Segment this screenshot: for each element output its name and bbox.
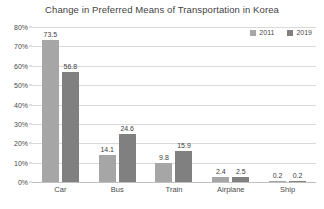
bar-slot: 2.4 (212, 27, 229, 182)
x-axis-line (32, 182, 316, 183)
y-axis-tick-label: 70% (14, 43, 28, 50)
bar-train-2019[interactable] (175, 151, 192, 182)
bar-group-car: 73.556.8 (32, 27, 89, 182)
bar-value-label: 15.9 (177, 142, 191, 149)
chart-container: Change in Preferred Means of Transportat… (0, 0, 324, 209)
bar-value-label: 2.4 (216, 168, 226, 175)
bar-airplane-2011[interactable] (212, 177, 229, 182)
bar-slot: 15.9 (175, 27, 192, 182)
bar-value-label: 14.1 (100, 146, 114, 153)
bar-airplane-2019[interactable] (232, 177, 249, 182)
plot-area: 0%10%20%30%40%50%60%70%80% 73.556.814.12… (32, 27, 316, 182)
bar-group-bus: 14.124.6 (89, 27, 146, 182)
bar-slot: 73.5 (42, 27, 59, 182)
bar-groups: 73.556.814.124.69.815.92.42.50.20.2 (32, 27, 316, 182)
bar-group-train: 9.815.9 (146, 27, 203, 182)
x-axis-label-bus: Bus (89, 185, 146, 194)
bar-slot: 56.8 (62, 27, 79, 182)
y-axis-tick-label: 30% (14, 120, 28, 127)
x-axis-labels: CarBusTrainAirplaneShip (32, 185, 316, 194)
y-axis-tick-label: 10% (14, 159, 28, 166)
bar-group-ship: 0.20.2 (259, 27, 316, 182)
bar-car-2011[interactable] (42, 40, 59, 182)
bar-value-label: 73.5 (44, 31, 58, 38)
bar-slot: 9.8 (155, 27, 172, 182)
x-axis-label-train: Train (146, 185, 203, 194)
y-axis-tick-label: 80% (14, 24, 28, 31)
bar-value-label: 24.6 (120, 125, 134, 132)
x-axis-label-ship: Ship (259, 185, 316, 194)
chart-title: Change in Preferred Means of Transportat… (0, 4, 324, 15)
bar-value-label: 0.2 (293, 172, 303, 179)
bar-train-2011[interactable] (155, 163, 172, 182)
y-axis-tick-label: 40% (14, 101, 28, 108)
y-axis-tick-label: 50% (14, 82, 28, 89)
bar-car-2019[interactable] (62, 72, 79, 182)
bar-value-label: 56.8 (64, 63, 78, 70)
y-axis-tick-label: 0% (18, 179, 28, 186)
bar-slot: 24.6 (119, 27, 136, 182)
bar-slot: 14.1 (99, 27, 116, 182)
x-axis-label-car: Car (32, 185, 89, 194)
bar-slot: 2.5 (232, 27, 249, 182)
y-axis-tick-label: 20% (14, 140, 28, 147)
y-axis-tick-label: 60% (14, 62, 28, 69)
bar-slot: 0.2 (269, 27, 286, 182)
bar-ship-2019[interactable] (289, 181, 306, 182)
bar-value-label: 0.2 (273, 172, 283, 179)
bar-bus-2019[interactable] (119, 134, 136, 182)
bar-value-label: 9.8 (159, 154, 169, 161)
bar-group-airplane: 2.42.5 (202, 27, 259, 182)
bar-ship-2011[interactable] (269, 181, 286, 182)
bar-value-label: 2.5 (236, 168, 246, 175)
bar-bus-2011[interactable] (99, 155, 116, 182)
bar-slot: 0.2 (289, 27, 306, 182)
x-axis-label-airplane: Airplane (202, 185, 259, 194)
